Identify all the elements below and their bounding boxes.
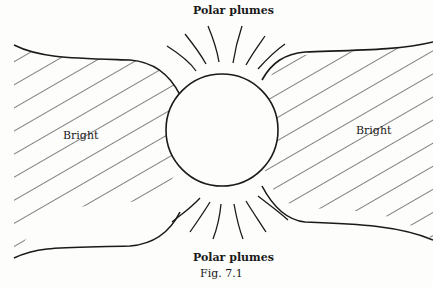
bottom-polar-plumes	[172, 196, 288, 239]
right-bright-label: Bright	[356, 124, 391, 137]
bottom-polar-plumes-label: Polar plumes	[193, 251, 274, 264]
sun-disc	[166, 74, 278, 186]
left-bright-label: Bright	[63, 129, 98, 142]
top-polar-plumes-label: Polar plumes	[193, 4, 274, 17]
top-polar-plumes	[167, 26, 285, 71]
figure-caption: Fig. 7.1	[200, 267, 243, 280]
corona-diagram	[0, 0, 433, 287]
